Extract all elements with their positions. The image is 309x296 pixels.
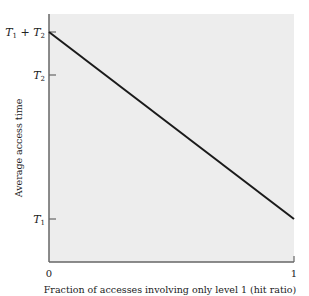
y-tick-label-t2: T2: [33, 69, 45, 83]
chart: T1 + T2 T2 T1 0 1 Fraction of accesses i…: [0, 0, 309, 296]
x-axis-title: Fraction of accesses involving only leve…: [44, 284, 296, 295]
y-axis-title: Average access time: [13, 98, 24, 198]
plot-area: [49, 14, 294, 262]
y-tick-label-t1: T1: [33, 213, 45, 227]
x-tick-label-0: 0: [46, 268, 52, 279]
x-tick-label-1: 1: [291, 268, 297, 279]
y-tick-label-t1-plus-t2: T1 + T2: [5, 26, 45, 40]
